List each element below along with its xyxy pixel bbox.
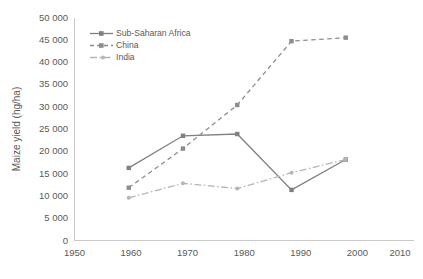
series-line (129, 160, 346, 198)
legend-item-china[interactable]: China (90, 40, 139, 50)
y-tick-label: 50 000 (39, 12, 68, 23)
series-line (129, 134, 346, 190)
legend-item-label: India (116, 52, 135, 62)
legend-swatch-marker (99, 43, 104, 48)
y-tick-label: 45 000 (39, 34, 68, 45)
x-tick-label: 1960 (120, 247, 141, 258)
x-tick-label: 1970 (177, 247, 198, 258)
chart-canvas: Maize yield (hg/ha) 0 5 000 10 000 15 00… (0, 0, 423, 279)
data-point (289, 39, 293, 43)
series-line (129, 38, 346, 188)
x-tick-label: 2010 (389, 247, 410, 258)
data-point (290, 171, 294, 175)
maize-yield-line-chart: Maize yield (hg/ha) 0 5 000 10 000 15 00… (0, 0, 423, 279)
legend-item-sub-saharan-africa[interactable]: Sub-Saharan Africa (90, 28, 191, 38)
legend-item-label: China (116, 40, 139, 50)
x-tick-label: 1950 (64, 247, 85, 258)
y-tick-label: 0 (63, 235, 68, 246)
y-tick-label: 40 000 (39, 56, 68, 67)
data-point (235, 187, 239, 191)
legend-swatch-marker (101, 56, 105, 60)
data-point (181, 134, 185, 138)
y-tick-label: 30 000 (39, 101, 68, 112)
data-point (235, 103, 239, 107)
data-point (235, 132, 239, 136)
x-tick-label: 1990 (290, 247, 311, 258)
series-sub-saharan-africa (127, 132, 348, 192)
legend-swatch-marker (99, 31, 104, 36)
series-layer (127, 35, 348, 199)
data-point (181, 146, 185, 150)
y-tick-label: 5 000 (44, 212, 68, 223)
y-tick-label: 15 000 (39, 168, 68, 179)
series-india (127, 158, 348, 200)
x-tick-label: 2000 (347, 247, 368, 258)
y-tick-labels: 0 5 000 10 000 15 000 20 000 25 000 30 0… (39, 12, 68, 246)
y-tick-label: 20 000 (39, 145, 68, 156)
data-point (344, 158, 348, 162)
data-point (127, 186, 131, 190)
y-tick-label: 35 000 (39, 78, 68, 89)
chart-legend: Sub-Saharan Africa China India (90, 28, 191, 62)
x-tick-label: 1980 (234, 247, 255, 258)
y-tick-label: 25 000 (39, 123, 68, 134)
data-point (127, 166, 131, 170)
legend-item-label: Sub-Saharan Africa (116, 28, 191, 38)
y-axis-title: Maize yield (hg/ha) (11, 87, 22, 171)
x-tick-labels: 1950 1960 1970 1980 1990 2000 2010 (64, 247, 411, 258)
data-point (127, 196, 131, 200)
data-point (289, 188, 293, 192)
data-point (344, 35, 348, 39)
y-tick-label: 10 000 (39, 190, 68, 201)
legend-item-india[interactable]: India (90, 52, 135, 62)
data-point (181, 181, 185, 185)
